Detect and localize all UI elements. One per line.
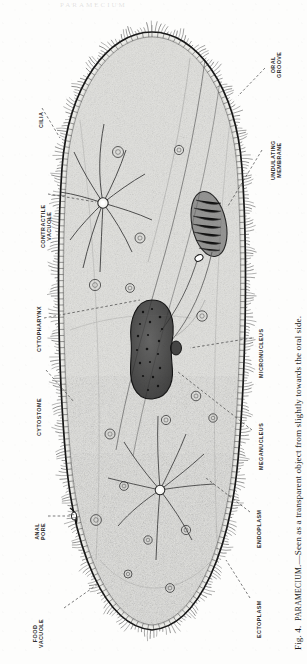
micronucleus-shape — [171, 341, 182, 355]
label-cilia: CILIA — [38, 112, 44, 128]
label-food-vacuole: FOOD VACUOLE — [32, 619, 45, 648]
figure-caption: Fig. 4. PARAMECIUM.—Seen as a transparen… — [293, 316, 303, 650]
meganucleus-shape — [130, 300, 173, 399]
label-micronucleus: MICRONUCLEUS — [258, 329, 264, 378]
label-cytopharynx: CYTOPHARYNX — [36, 306, 42, 352]
figure-plate: PARAMECIUM — [0, 0, 307, 664]
caption-subject: PARAMECIUM — [294, 567, 303, 621]
label-ectoplasm: ECTOPLASM — [256, 600, 262, 638]
label-cytostome: CYTOSTOME — [36, 398, 42, 436]
label-contractile-vacuole: CONTRACTILE VACUOLE — [40, 204, 53, 248]
caption-body: .—Seen as a transparent object from slig… — [293, 316, 303, 567]
label-undulating-membrane: UNDULATING MEMBRANE — [270, 140, 283, 180]
label-oral-groove: ORAL GROOVE — [270, 52, 283, 78]
label-anal-pore: ANAL PORE — [34, 523, 47, 540]
label-endoplasm: ENDOPLASM — [256, 510, 262, 549]
label-meganucleus: MEGANUCLEUS — [258, 423, 264, 470]
caption-figure-number: Fig. 4. — [293, 626, 303, 650]
